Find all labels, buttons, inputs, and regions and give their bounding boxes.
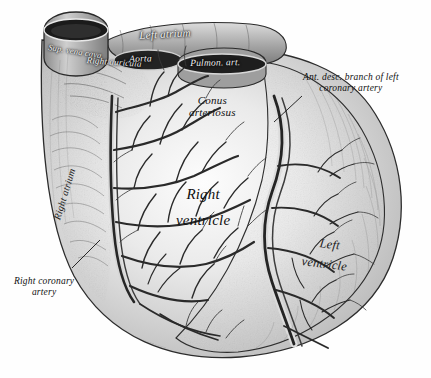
label-conus-arteriosus: Conus arteriosus (189, 94, 236, 119)
label-left-ventricle: Left ventricle (307, 235, 350, 274)
label-right-coronary-line1: Right coronary (14, 276, 74, 287)
label-pulmonary-artery: Pulmon. art. (190, 57, 240, 68)
label-right-ventricle-line1: Right (176, 186, 230, 203)
anatomy-figure: Sup. vena cava Left atrium Right auricul… (0, 0, 431, 378)
label-aorta: Aorta (129, 53, 152, 64)
label-conus-line1: Conus (189, 94, 236, 106)
label-pulmonary-artery-text: Pulmon. art. (190, 57, 240, 68)
label-ant-desc-branch-line1: Ant. desc. branch of left (303, 72, 399, 83)
label-ant-desc-branch: Ant. desc. branch of left coronary arter… (303, 72, 399, 93)
label-right-ventricle-line2: ventricle (176, 212, 230, 229)
label-right-coronary-artery: Right coronary artery (14, 276, 74, 297)
label-aorta-text: Aorta (129, 53, 152, 64)
label-ant-desc-branch-line2: coronary artery (303, 83, 399, 94)
label-left-atrium-text: Left atrium (139, 26, 191, 41)
label-right-coronary-line2: artery (14, 287, 74, 298)
label-right-ventricle: Right ventricle (176, 186, 230, 229)
label-conus-line2: arteriosus (189, 106, 236, 118)
